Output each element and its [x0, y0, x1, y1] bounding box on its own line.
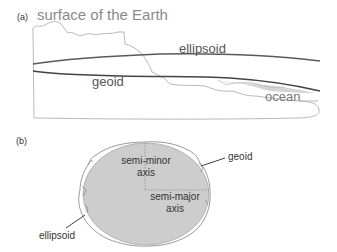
ellipsoid-label-a: ellipsoid — [179, 42, 226, 55]
semi-major-axis-text-1: semi-major — [144, 192, 206, 202]
semi-minor-axis-text-1: semi-minor — [116, 156, 176, 166]
ocean-label: ocean — [265, 90, 300, 103]
ellipsoid-line — [33, 54, 320, 64]
semi-major-axis-label: semi-major axis — [144, 192, 206, 214]
ellipsoid-label-b: ellipsoid — [39, 231, 75, 241]
panel-a-tag: (a) — [17, 13, 28, 22]
panel-b-tag: (b) — [16, 137, 27, 146]
semi-minor-axis-text-2: axis — [116, 168, 176, 178]
semi-minor-axis-label: semi-minor axis — [116, 156, 176, 178]
earth-surface-line — [33, 22, 170, 118]
geoid-label-a: geoid — [92, 75, 124, 88]
ellipsoid-pointer — [66, 215, 85, 228]
panel-a-graphic — [33, 22, 320, 120]
semi-major-axis-text-2: axis — [144, 204, 206, 214]
geoid-pointer — [201, 158, 225, 166]
surface-of-earth-label: surface of the Earth — [37, 7, 168, 22]
diagram-canvas — [0, 0, 337, 252]
geoid-label-b: geoid — [228, 152, 252, 162]
